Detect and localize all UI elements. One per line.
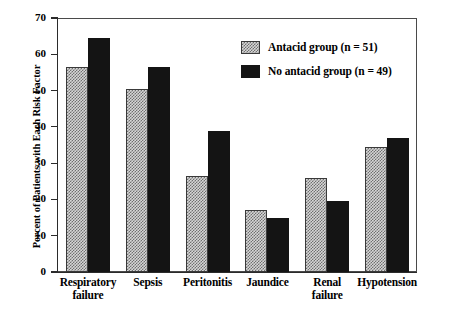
x-axis-label: Hypotension: [345, 276, 429, 289]
y-tick-mark: [51, 235, 58, 236]
bar-chart-figure: Percent of Patients with Each Risk Facto…: [0, 0, 450, 323]
y-tick-mark: [51, 54, 58, 55]
y-tick-label: 10: [22, 230, 46, 241]
legend-swatch-solid-black-icon: [241, 65, 260, 78]
y-tick-mark: [51, 90, 58, 91]
legend-label-no-antacid: No antacid group (n = 49): [268, 65, 392, 77]
y-tick-mark: [51, 126, 58, 127]
y-tick-label: 60: [22, 48, 46, 59]
y-tick-label: 20: [22, 193, 46, 204]
legend-swatch-checkered-gray-icon: [241, 41, 260, 54]
chart-legend: Antacid group (n = 51) No antacid group …: [241, 37, 392, 85]
bar: [387, 138, 409, 272]
bar: [66, 67, 88, 272]
bar: [305, 178, 327, 272]
bar-group: [126, 18, 170, 272]
y-tick-label: 40: [22, 121, 46, 132]
legend-item-no-antacid: No antacid group (n = 49): [241, 61, 392, 81]
bar-group: [66, 18, 110, 272]
legend-label-antacid: Antacid group (n = 51): [268, 41, 378, 53]
y-tick-label: 0: [22, 266, 46, 277]
bar: [88, 38, 110, 272]
y-tick-mark: [51, 163, 58, 164]
y-tick-mark: [51, 17, 58, 18]
bar: [327, 201, 349, 272]
y-tick-mark: [51, 199, 58, 200]
bar: [208, 131, 230, 273]
bar-group: [186, 18, 230, 272]
bar: [126, 89, 148, 272]
y-tick-label: 50: [22, 85, 46, 96]
y-tick-label: 70: [22, 12, 46, 23]
legend-item-antacid: Antacid group (n = 51): [241, 37, 392, 57]
bar: [245, 210, 267, 272]
y-tick-mark: [51, 271, 58, 272]
bar: [148, 67, 170, 272]
bar: [365, 147, 387, 272]
bar: [267, 218, 289, 272]
bar: [186, 176, 208, 272]
y-tick-label: 30: [22, 157, 46, 168]
